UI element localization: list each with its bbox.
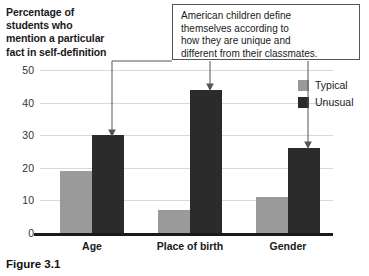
arrowhead-place-of-birth [206,84,214,92]
arrowhead-gender [304,142,312,150]
callout-line: how they are unique and [181,35,352,48]
callout-annotation: American children define themselves acco… [172,4,360,60]
arrowhead-age [108,130,116,138]
callout-line: themselves according to [181,23,352,36]
figure-3-1: Percentage of students who mention a par… [0,0,369,276]
callout-line: different from their classmates. [181,48,352,61]
callout-line: American children define [181,10,352,23]
